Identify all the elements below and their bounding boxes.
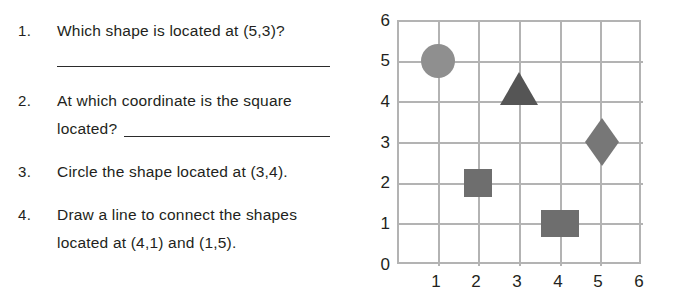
y-axis-label-1: 1 [370,215,390,232]
y-axis-label-0: 0 [370,256,390,273]
grid-line-vertical-3 [519,22,521,266]
x-axis-label-2: 2 [466,273,486,290]
question-2-text-line2: located? [57,120,117,138]
x-axis-label-5: 5 [588,273,608,290]
y-axis-label-5: 5 [370,52,390,69]
question-4-text: Draw a line to connect the shapes [57,206,297,224]
worksheet-page: 1. Which shape is located at (5,3)? 2. A… [0,0,675,304]
x-axis-label-3: 3 [507,273,527,290]
question-1-answer-line[interactable] [57,66,330,67]
grid-line-vertical-2 [478,22,480,266]
grid-line-horizontal-1 [399,223,643,225]
question-1-number: 1. [18,22,31,39]
question-1-text: Which shape is located at (5,3)? [57,22,285,40]
question-3-number: 3. [18,163,31,180]
y-axis-label-4: 4 [370,93,390,110]
question-2-number: 2. [18,92,31,109]
x-axis-label-6: 6 [629,273,649,290]
y-axis-label-3: 3 [370,134,390,151]
data-point-circle [421,44,455,78]
question-4-number: 4. [18,206,31,223]
y-axis-label-6: 6 [370,12,390,29]
y-axis-label-2: 2 [370,174,390,191]
data-point-rectangle [541,210,579,237]
grid-line-horizontal-2 [399,183,643,185]
question-4-text-line2: located at (4,1) and (1,5). [57,234,236,252]
x-axis-label-4: 4 [548,273,568,290]
data-point-triangle [500,72,538,105]
x-axis-label-1: 1 [426,273,446,290]
diamond-upper-half [585,118,619,142]
diamond-lower-half [585,142,619,166]
coordinate-grid-chart: 6 5 4 3 2 1 0 1 2 3 4 5 6 [370,0,675,304]
question-3-text: Circle the shape located at (3,4). [57,163,288,181]
questions-column: 1. Which shape is located at (5,3)? 2. A… [0,0,370,304]
grid-box [397,20,641,264]
data-point-square [464,169,492,197]
question-2-text: At which coordinate is the square [57,92,292,110]
question-2-answer-line[interactable] [124,136,330,137]
data-point-diamond [585,118,619,166]
